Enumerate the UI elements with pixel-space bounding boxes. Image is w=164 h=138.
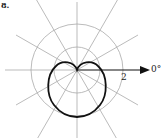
arrow-icon — [140, 66, 150, 74]
polar-axis-label: 0° — [151, 64, 161, 74]
radial-tick-label: 2 — [121, 72, 127, 82]
polar-axis — [77, 66, 150, 74]
polar-plot — [0, 0, 164, 138]
